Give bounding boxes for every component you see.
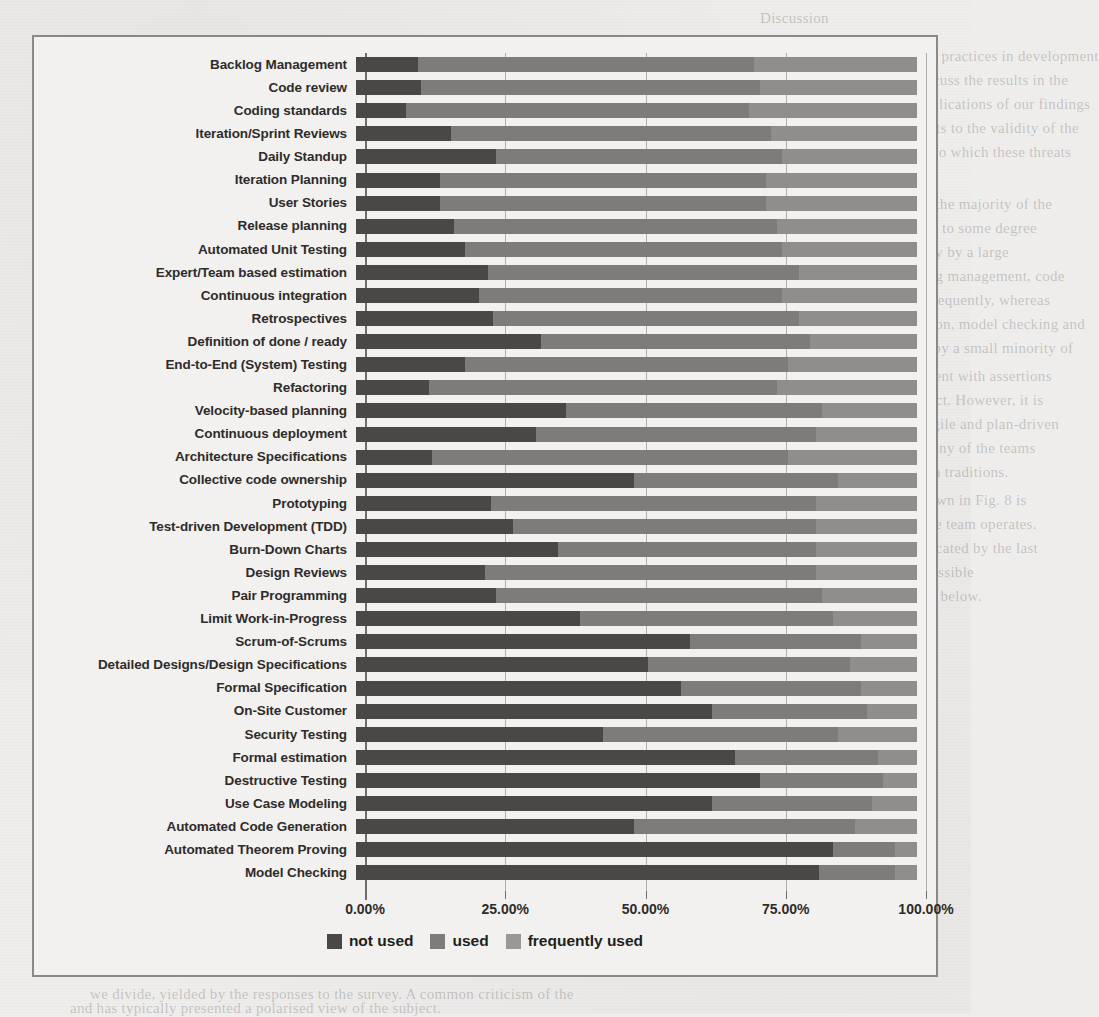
background-text-line: and has typically presented a polarised … [70, 1000, 441, 1017]
stacked-bar [356, 611, 917, 626]
stacked-bar [356, 750, 917, 765]
x-axis-ticks [365, 891, 926, 899]
bar-segment-frequently-used [861, 634, 917, 649]
category-label: Continuous integration [34, 289, 356, 303]
x-tick-label: 0.00% [345, 901, 385, 917]
bar-segment-used [566, 403, 821, 418]
chart-row: Automated Theorem Proving [34, 838, 940, 861]
legend-item[interactable]: used [430, 932, 488, 950]
chart-row: Detailed Designs/Design Specifications [34, 653, 940, 676]
bar-segment-not-used [356, 334, 541, 349]
bar-segment-not-used [356, 357, 465, 372]
bar-segment-used [819, 865, 895, 880]
category-label: Burn-Down Charts [34, 543, 356, 557]
bar-segment-frequently-used [833, 611, 917, 626]
stacked-bar [356, 681, 917, 696]
bar-segment-frequently-used [771, 126, 917, 141]
bar-segment-used [690, 634, 861, 649]
bar-segment-used [488, 265, 799, 280]
chart-row: Security Testing [34, 723, 940, 746]
bar-segment-used [541, 334, 810, 349]
background-text-line: Discussion [760, 10, 829, 27]
x-tick-75 [786, 891, 787, 899]
x-tick-label: 50.00% [622, 901, 669, 917]
chart-row: Test-driven Development (TDD) [34, 515, 940, 538]
category-label: Continuous deployment [34, 427, 356, 441]
bar-segment-frequently-used [766, 196, 917, 211]
bar-segment-not-used [356, 473, 634, 488]
category-label: Refactoring [34, 381, 356, 395]
bar-segment-used [421, 80, 760, 95]
category-label: Expert/Team based estimation [34, 266, 356, 280]
bar-segment-not-used [356, 727, 603, 742]
category-label: Formal estimation [34, 751, 356, 765]
bar-segment-not-used [356, 196, 440, 211]
bar-segment-not-used [356, 657, 648, 672]
category-label: Use Case Modeling [34, 797, 356, 811]
chart-row: Design Reviews [34, 561, 940, 584]
chart-row: Prototyping [34, 492, 940, 515]
bar-segment-used [634, 819, 856, 834]
category-label: Code review [34, 81, 356, 95]
bar-segment-used [493, 311, 799, 326]
category-label: Definition of done / ready [34, 335, 356, 349]
chart-row: Iteration Planning [34, 168, 940, 191]
bar-segment-used [465, 357, 788, 372]
bar-segment-frequently-used [782, 242, 917, 257]
category-label: Release planning [34, 219, 356, 233]
category-label: Limit Work-in-Progress [34, 612, 356, 626]
chart-row: Daily Standup [34, 145, 940, 168]
legend-item[interactable]: frequently used [506, 932, 643, 950]
bar-segment-frequently-used [872, 796, 917, 811]
bar-segment-not-used [356, 380, 429, 395]
category-label: Architecture Specifications [34, 450, 356, 464]
bar-segment-frequently-used [838, 727, 917, 742]
stacked-bar [356, 796, 917, 811]
chart-row: Formal estimation [34, 746, 940, 769]
bar-segment-frequently-used [816, 427, 917, 442]
bar-segment-not-used [356, 103, 406, 118]
bar-segment-frequently-used [816, 565, 917, 580]
legend-item[interactable]: not used [327, 932, 414, 950]
category-label: Automated Theorem Proving [34, 843, 356, 857]
bar-segment-frequently-used [760, 80, 917, 95]
chart-legend: not usedusedfrequently used [34, 932, 936, 950]
stacked-bar [356, 427, 917, 442]
legend-swatch-icon [506, 934, 521, 949]
bar-segment-used [634, 473, 839, 488]
bar-segment-frequently-used [754, 57, 917, 72]
category-label: Daily Standup [34, 150, 356, 164]
bar-segment-frequently-used [782, 288, 917, 303]
bar-segment-used [603, 727, 839, 742]
category-label: Design Reviews [34, 566, 356, 580]
bar-segment-not-used [356, 542, 558, 557]
chart-row: Continuous deployment [34, 423, 940, 446]
bar-segment-used [429, 380, 777, 395]
category-label: Prototyping [34, 497, 356, 511]
bar-segment-frequently-used [788, 450, 917, 465]
stacked-bar [356, 865, 917, 880]
bar-segment-not-used [356, 819, 634, 834]
bar-segment-used [485, 565, 816, 580]
stacked-bar [356, 588, 917, 603]
bar-segment-used [712, 796, 872, 811]
chart-row: Pair Programming [34, 584, 940, 607]
bar-segment-not-used [356, 311, 493, 326]
bar-segment-not-used [356, 681, 681, 696]
category-label: Retrospectives [34, 312, 356, 326]
bar-segment-used [406, 103, 748, 118]
chart-row: Continuous integration [34, 284, 940, 307]
bar-segment-not-used [356, 80, 421, 95]
bar-segment-not-used [356, 173, 440, 188]
stacked-bar [356, 657, 917, 672]
plot-area: Backlog ManagementCode reviewCoding stan… [34, 37, 936, 975]
category-label: Model Checking [34, 866, 356, 880]
bar-segment-used [580, 611, 832, 626]
bar-segment-not-used [356, 588, 496, 603]
bar-segment-frequently-used [816, 542, 917, 557]
bar-segment-used [513, 519, 816, 534]
bar-segment-used [833, 842, 895, 857]
legend-swatch-icon [430, 934, 445, 949]
category-label: Scrum-of-Scrums [34, 635, 356, 649]
stacked-bar [356, 704, 917, 719]
